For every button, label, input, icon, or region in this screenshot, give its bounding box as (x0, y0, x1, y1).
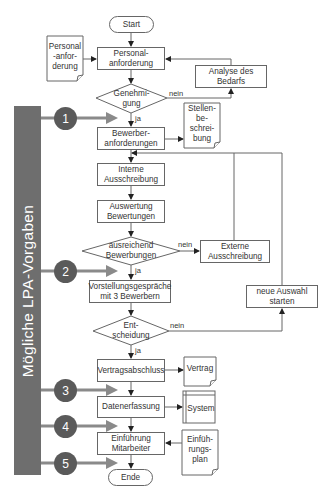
marker-1: 1 (54, 107, 77, 130)
marker-4: 4 (54, 415, 77, 438)
auswertung-box: Auswertung Bewertungen (97, 200, 165, 223)
entscheidung-no-label: nein (170, 321, 184, 330)
einfuehrungsplan-document: Einfüh- rungs- plan (182, 432, 218, 468)
entscheidung-yes-label: ja (135, 346, 141, 355)
ausreichend-yes-label: ja (135, 266, 141, 275)
genehmigung-yes-label: ja (135, 114, 141, 123)
marker-5: 5 (54, 452, 77, 475)
entscheidung-label: Ent- scheidung (93, 320, 169, 342)
vertrag-document: Vertrag (184, 359, 216, 379)
personalanforderung-box: Personal- anforderung (97, 47, 165, 70)
start-node: Start (109, 16, 154, 33)
marker-3: 3 (54, 379, 77, 402)
bewerberanforderungen-box: Bewerber- anforderungen (97, 127, 165, 150)
vorstellung-box: Vorstellungsgespräche mit 3 Bewerbern (89, 280, 171, 303)
genehmigung-label: Genehmi- gung (96, 88, 167, 110)
lpa-sidebar: Mögliche LPA-Vorgaben (14, 106, 41, 475)
analyse-box: Analyse des Bedarfs (195, 65, 267, 88)
sidebar-label: Mögliche LPA-Vorgaben (19, 204, 37, 376)
interne-ausschreibung-box: Interne Ausschreibung (97, 163, 165, 186)
ausreichend-label: ausreichend Bewerbungen (90, 240, 172, 262)
vertragsabschluss-box: Vertragsabschluss (97, 359, 165, 382)
stellenbeschreibung-document: Stellen- be- schrei- bung (184, 104, 220, 144)
marker-2: 2 (54, 260, 77, 283)
neue-auswahl-box: neue Auswahl starten (246, 285, 318, 308)
system-storage: System (186, 396, 216, 422)
ausreichend-no-label: nein (178, 240, 192, 249)
personal-document: Personal -anfor- derung (47, 38, 83, 76)
externe-box: Externe Ausschreibung (200, 240, 270, 263)
genehmigung-no-label: nein (169, 89, 183, 98)
datenerfassung-box: Datenerfassung (97, 396, 165, 418)
ende-node: Ende (108, 469, 153, 486)
einfuehrung-box: Einführung Mitarbeiter (97, 432, 165, 455)
